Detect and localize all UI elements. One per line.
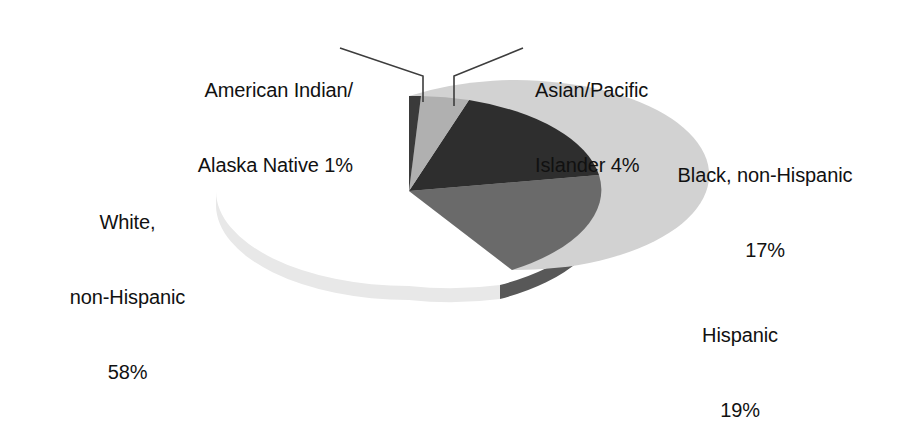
label-asian-pacific-line1: Asian/Pacific [535, 78, 765, 103]
label-hispanic-line1: Hispanic [640, 323, 840, 348]
label-white-non-hispanic: White, non-Hispanic 58% [20, 160, 235, 421]
label-hispanic: Hispanic 19% [640, 273, 840, 421]
label-white-line2: non-Hispanic [20, 285, 235, 310]
label-black-line1: Black, non-Hispanic [640, 163, 890, 188]
label-hispanic-line2: 19% [640, 398, 840, 421]
label-american-indian-line1: American Indian/ [133, 78, 353, 103]
label-white-line3: 58% [20, 360, 235, 385]
label-black-line2: 17% [640, 238, 890, 263]
pie-wall-white-non-hispanic-right [409, 285, 500, 302]
label-white-line1: White, [20, 210, 235, 235]
